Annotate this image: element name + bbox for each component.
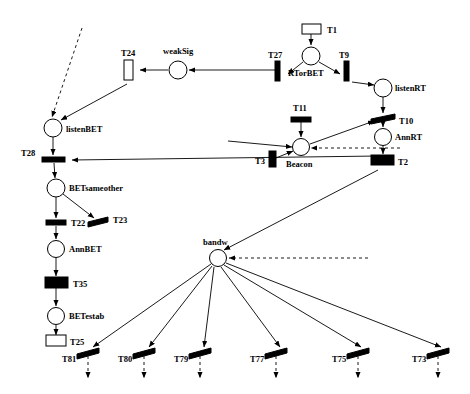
arc-bandw-t79	[204, 267, 214, 347]
transition-t35[interactable]	[45, 277, 68, 288]
arc-beacon-t10	[310, 121, 374, 144]
place-betsameother[interactable]	[47, 179, 65, 197]
arc-bandw-t75	[224, 265, 361, 347]
arc-bandw-t77	[221, 267, 280, 347]
label-t9: T9	[339, 50, 349, 60]
label-t75: T75	[332, 354, 346, 364]
label-t25: T25	[70, 337, 84, 347]
place-bandw[interactable]	[210, 250, 227, 267]
transition-t28[interactable]	[42, 157, 65, 162]
transition-t11[interactable]	[291, 117, 311, 122]
place-weaksig[interactable]	[169, 61, 187, 79]
label-layer: weakSig RTorBET listenRT AnnRT Beacon li…	[21, 25, 426, 364]
place-betestab[interactable]	[48, 308, 65, 325]
place-rtorbet[interactable]	[302, 47, 320, 65]
label-beacon: Beacon	[286, 159, 313, 169]
transition-t25[interactable]	[46, 335, 66, 346]
transition-t9[interactable]	[344, 61, 349, 81]
transition-t23[interactable]	[88, 217, 108, 227]
petri-net-diagram: weakSig RTorBET listenRT AnnRT Beacon li…	[0, 0, 470, 394]
arc-left-beacon	[228, 141, 292, 147]
label-t24: T24	[121, 48, 136, 58]
label-annrt: AnnRT	[395, 132, 422, 142]
label-t22: T22	[71, 218, 85, 228]
arc-bandw-t73	[226, 263, 441, 347]
arc-t9-listenrt	[352, 82, 374, 85]
place-beacon[interactable]	[293, 139, 310, 156]
label-t28: T28	[21, 148, 35, 158]
label-t10: T10	[399, 116, 413, 126]
label-t77: T77	[250, 354, 265, 364]
label-bandw: bandw	[203, 237, 228, 247]
arc-t24-listenbet	[61, 84, 127, 120]
place-listenbet[interactable]	[44, 119, 62, 137]
label-annbet: AnnBET	[69, 244, 102, 254]
arc-bandw-t81	[93, 264, 211, 347]
label-t73: T73	[412, 354, 426, 364]
arc-external-listenbet-dashed	[52, 28, 82, 117]
label-t80: T80	[118, 354, 132, 364]
label-t81: T81	[62, 354, 76, 364]
arc-bandw-t80	[149, 266, 212, 347]
arc-betsameother-t23	[63, 194, 94, 218]
label-t3: T3	[255, 156, 265, 166]
transition-t24[interactable]	[124, 60, 133, 80]
transition-t2[interactable]	[371, 155, 394, 165]
label-t2: T2	[398, 157, 408, 167]
label-rtorbet: RTorBET	[288, 68, 324, 78]
place-annrt[interactable]	[375, 129, 392, 146]
label-t11: T11	[293, 103, 307, 113]
transition-t1[interactable]	[302, 24, 321, 34]
label-weaksig: weakSig	[163, 46, 194, 56]
petri-net-canvas: weakSig RTorBET listenRT AnnRT Beacon li…	[0, 0, 470, 394]
transition-t3[interactable]	[269, 151, 276, 167]
arc-t28-betsameother	[54, 163, 55, 178]
arc-t2-t28	[72, 156, 378, 160]
label-listenrt: listenRT	[395, 83, 426, 93]
label-betsameother: BETsameother	[69, 183, 123, 193]
label-t27: T27	[268, 50, 283, 60]
place-listenrt[interactable]	[374, 79, 392, 97]
transition-t27[interactable]	[275, 61, 280, 81]
label-listenbet: listenBET	[66, 124, 103, 134]
label-t23: T23	[113, 215, 127, 225]
place-annbet[interactable]	[48, 241, 65, 258]
label-t35: T35	[73, 279, 87, 289]
label-t1: T1	[327, 25, 337, 35]
arc-t2-bandw	[224, 170, 378, 250]
label-t79: T79	[174, 354, 188, 364]
label-betestab: BETestab	[69, 311, 104, 321]
transition-t22[interactable]	[46, 220, 66, 225]
